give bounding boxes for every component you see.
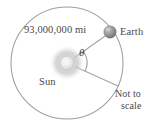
angle-theta-label: θ	[79, 47, 85, 59]
orbit-diagram-figure: 93,000,000 mi Earth Sun θ Not to scale	[0, 0, 151, 128]
not-to-scale-line-1: Not to	[115, 88, 142, 100]
earth-label: Earth	[120, 26, 143, 37]
earth-body	[104, 26, 116, 38]
not-to-scale-line-2: scale	[121, 100, 142, 112]
sun-body	[60, 56, 74, 70]
sun-label: Sun	[39, 76, 56, 87]
not-to-scale-note: Not to scale	[115, 88, 142, 112]
earth-highlight	[106, 28, 111, 32]
orbit-distance-label: 93,000,000 mi	[24, 24, 86, 35]
